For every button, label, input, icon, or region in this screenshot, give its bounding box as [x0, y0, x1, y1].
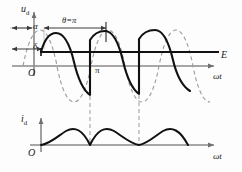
origin-label-top: O	[28, 68, 35, 78]
current-axis-label: id	[21, 114, 27, 127]
omega-t-label-top: ωt	[213, 72, 222, 81]
alpha-label: α	[33, 22, 38, 31]
omega-t-label-bottom: ωt	[213, 152, 222, 161]
theta-label: θ=π	[62, 16, 76, 25]
output-voltage-curve	[41, 30, 190, 95]
waveform-figure: ud id O O α δ θ=π π E ωt ωt	[0, 0, 242, 172]
origin-label-bottom: O	[28, 148, 35, 158]
pi-tick-label: π	[95, 66, 100, 75]
emf-label: E	[221, 50, 227, 60]
theta-dimension	[44, 22, 106, 49]
voltage-axis-label: ud	[21, 4, 29, 17]
output-current-curve	[41, 129, 188, 145]
alpha-dimension	[12, 20, 34, 28]
delta-label: δ	[33, 42, 37, 51]
